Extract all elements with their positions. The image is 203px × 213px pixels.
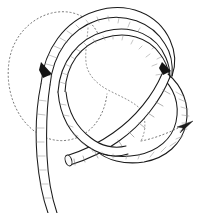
knot-illustration: [0, 0, 203, 213]
knot-diagram-figure: Knot tying diagram Line drawing of a rop…: [0, 0, 203, 213]
rope-strand-inner-top-arc: [58, 29, 170, 92]
crossing-wedges: [39, 62, 171, 78]
direction-arrow: [141, 121, 193, 141]
rope-strand-middle-front-loop: [58, 92, 128, 158]
rope-strand-left-tail: [36, 84, 57, 213]
dotted-construction-circle: [8, 12, 107, 141]
